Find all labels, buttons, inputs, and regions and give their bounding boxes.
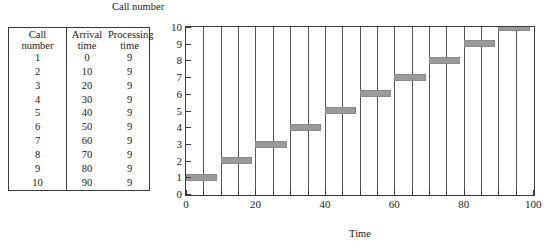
chart-x-tick [377,190,378,195]
cell-arrival-time: 80 [66,162,108,176]
cell-arrival-time: 50 [66,121,108,135]
cell-arrival-time: 0 [66,51,108,65]
chart-x-tick [221,190,222,195]
cell-call-number: 6 [9,121,66,135]
chart-gridline [481,27,482,195]
chart-bar-call-5 [325,107,356,114]
chart-y-tick [186,44,191,45]
chart-x-tick [516,190,517,195]
chart-x-tick [325,190,326,195]
cell-arrival-time: 40 [66,107,108,121]
chart-gridline [446,27,447,195]
chart-x-tick [273,190,274,195]
chart-plot-inner [186,27,534,195]
chart-y-tick [186,27,191,28]
table-row: 8709 [9,148,151,162]
cell-processing-time: 9 [108,79,151,93]
cell-processing-time: 9 [108,51,151,65]
chart-gridline [377,27,378,195]
cell-processing-time: 9 [108,121,151,135]
chart-x-tick [203,190,204,195]
chart-gridline [221,27,222,195]
chart-y-tick [186,161,191,162]
chart-x-tick [290,190,291,195]
chart-bar-call-4 [290,124,321,131]
cell-processing-time: 9 [108,135,151,149]
column-header-processing-time: Processing time [108,28,151,51]
cell-processing-time: 9 [108,93,151,107]
chart-y-tick [186,111,191,112]
table-row: 109 [9,51,151,65]
cell-arrival-time: 60 [66,135,108,149]
chart-x-tick-label: 40 [319,199,330,210]
chart-y-tick [186,60,191,61]
chart-gridline [464,27,465,195]
chart-x-tick [481,190,482,195]
chart-x-tick [308,190,309,195]
chart-gridline [516,27,517,195]
chart-gridline [203,27,204,195]
chart-bar-call-2 [221,157,252,164]
chart-x-axis-title: Time [185,228,535,239]
chart-y-tick-label: 8 [177,55,183,66]
cell-arrival-time: 20 [66,79,108,93]
chart-y-tick-label: 10 [171,22,182,33]
chart-y-tick-label: 9 [177,38,183,49]
chart-y-tick-label: 5 [177,105,183,116]
cell-arrival-time: 10 [66,65,108,79]
column-header-arrival-time: Arrival time [66,28,108,51]
call-data-table: Call number Arrival time Processing time… [9,28,151,190]
chart-bar-call-9 [464,40,495,47]
chart-gridline [238,27,239,195]
column-header-call-number: Call number [9,28,66,51]
chart-y-tick-label: 1 [177,172,183,183]
cell-call-number: 1 [9,51,66,65]
chart-x-tick [342,190,343,195]
table-row: 3209 [9,79,151,93]
chart-y-tick-label: 0 [177,189,183,200]
cell-arrival-time: 70 [66,148,108,162]
table-row: 2109 [9,65,151,79]
cell-processing-time: 9 [108,107,151,121]
chart-x-tick [446,190,447,195]
chart-x-tick [360,190,361,195]
chart-gridline [394,27,395,195]
chart-gridline [412,27,413,195]
chart-y-tick-label: 4 [177,122,183,133]
chart-gridline [273,27,274,195]
chart-bar-call-10 [498,27,529,31]
chart-x-tick [533,190,534,195]
chart-y-tick [186,177,191,178]
table-row: 7609 [9,135,151,149]
table-row: 6509 [9,121,151,135]
chart-y-tick [186,77,191,78]
chart-bar-call-8 [429,57,460,64]
chart-y-axis-title: Call number [112,1,164,12]
table-row: 5409 [9,107,151,121]
chart-gridline [498,27,499,195]
chart-y-tick [186,127,191,128]
chart-y-tick-label: 6 [177,88,183,99]
cell-call-number: 10 [9,176,66,190]
cell-call-number: 9 [9,162,66,176]
table-column-divider [66,28,67,190]
cell-arrival-time: 90 [66,176,108,190]
cell-processing-time: 9 [108,148,151,162]
cell-arrival-time: 30 [66,93,108,107]
chart-plot-area: 012345678910020406080100 [185,26,535,196]
chart-x-tick [412,190,413,195]
table-body: 1092109320943095409650976098709980910909 [9,51,151,190]
chart-gridline [308,27,309,195]
cell-call-number: 8 [9,148,66,162]
chart-x-tick-label: 60 [389,199,400,210]
table-row: 4309 [9,93,151,107]
chart-x-tick [498,190,499,195]
chart-x-tick [238,190,239,195]
chart-bar-call-3 [255,141,286,148]
cell-processing-time: 9 [108,176,151,190]
chart-x-tick [394,190,395,195]
table-row: 10909 [9,176,151,190]
cell-call-number: 5 [9,107,66,121]
chart-x-tick [429,190,430,195]
chart-y-tick-label: 2 [177,155,183,166]
